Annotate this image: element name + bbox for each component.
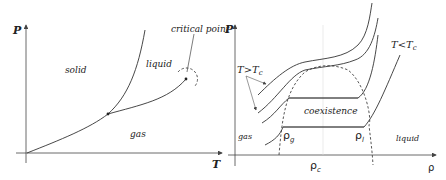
right-x-axis-label: ρ — [428, 162, 434, 173]
region-solid-label: solid — [65, 65, 87, 75]
region-gas-label: gas — [130, 129, 146, 139]
pointer-arrow-2 — [246, 76, 256, 110]
region-liquid-label: liquid — [146, 59, 172, 69]
liquid-region-label: liquid — [396, 134, 419, 143]
left-x-axis-label: T — [212, 158, 221, 171]
isotherm-high-1 — [258, 3, 372, 95]
critical-point-marker — [185, 78, 188, 81]
critical-point-label: critical point — [171, 24, 230, 34]
vaporization-curve — [108, 79, 186, 114]
label-t-less-tc: T<Tc — [391, 39, 417, 52]
coexistence-label: coexistence — [304, 106, 357, 116]
triple-point — [107, 113, 110, 116]
pointer-arrow-1 — [246, 76, 266, 84]
right-y-axis-label: P — [224, 23, 234, 36]
left-y-axis-label: P — [12, 24, 22, 37]
isotherm-critical — [258, 18, 378, 113]
label-t-greater-tc: T>Tc — [237, 64, 263, 77]
rho-l-label: ρl — [355, 129, 364, 144]
right-isotherm-diagram: P ρ T>Tc T<Tc coexistence gas liquid ρg … — [224, 3, 436, 174]
rho-g-label: ρg — [283, 129, 295, 144]
rho-c-label: ρc — [310, 159, 321, 174]
left-phase-diagram: P T critical point solid liquid gas — [12, 24, 230, 171]
critical-point-circle — [178, 68, 198, 86]
sublimation-curve — [27, 114, 108, 153]
critical-point-pointer — [187, 34, 194, 72]
gas-region-label: gas — [238, 132, 252, 141]
phase-diagrams: P T critical point solid liquid gas P ρ — [0, 0, 446, 180]
melting-curve — [108, 30, 145, 114]
